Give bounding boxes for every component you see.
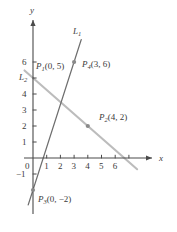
x-axis-arrowhead bbox=[146, 155, 152, 160]
y-axis-label: y bbox=[30, 6, 34, 15]
point-marker-P2 bbox=[86, 124, 90, 128]
x-tick-label-2: 2 bbox=[58, 162, 63, 171]
x-axis-label: x bbox=[159, 154, 163, 163]
line-label-L2: L2 bbox=[19, 73, 27, 82]
origin-label: 0 bbox=[25, 162, 30, 171]
point-label-P4: P4(3, 6) bbox=[82, 60, 110, 69]
y-tick-label-2: 2 bbox=[22, 122, 27, 131]
line-label-L1: L1 bbox=[73, 27, 81, 36]
y-tick-label-6: 6 bbox=[22, 58, 27, 67]
y-tick-label-1: 1 bbox=[22, 138, 27, 147]
point-marker-P3 bbox=[31, 188, 35, 192]
y-tick-label-3: 3 bbox=[22, 106, 27, 115]
x-tick-label-4: 4 bbox=[85, 162, 90, 171]
graph-canvas bbox=[0, 0, 177, 232]
y-tick-label--1: −1 bbox=[16, 170, 26, 179]
point-marker-P4 bbox=[72, 60, 76, 64]
y-axis-arrowhead bbox=[30, 20, 35, 26]
x-tick-label-6: 6 bbox=[113, 162, 118, 171]
y-tick-label-4: 4 bbox=[22, 90, 27, 99]
coordinate-graph-figure: y x 0 123456 −112346 L1 L2 P1(0, 5) P2(4… bbox=[0, 0, 177, 232]
point-label-P2: P2(4, 2) bbox=[99, 113, 127, 122]
point-markers bbox=[31, 60, 90, 192]
point-label-P1: P1(0, 5) bbox=[36, 62, 64, 71]
point-label-P3: P3(0, −2) bbox=[38, 195, 71, 204]
x-tick-label-5: 5 bbox=[99, 162, 104, 171]
x-tick-label-3: 3 bbox=[72, 162, 77, 171]
x-tick-label-1: 1 bbox=[44, 162, 49, 171]
